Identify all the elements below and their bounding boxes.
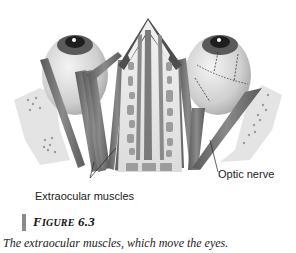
figure-accent-bar [22,214,26,231]
nasal-septum-bone [118,18,182,172]
extraocular-muscles-illustration [0,0,296,190]
figure-title-initial: F [33,214,42,229]
figure-title: FIGURE 6.3 [33,214,95,230]
figure: Optic nerve Extraocular muscles FIGURE 6… [0,0,296,253]
figure-caption: The extraocular muscles, which move the … [3,236,228,251]
figure-title-smallcaps: IGURE [42,217,75,228]
extraocular-muscles-label: Extraocular muscles [35,190,134,202]
figure-number: 6.3 [78,214,95,229]
optic-nerve-label: Optic nerve [218,168,274,180]
